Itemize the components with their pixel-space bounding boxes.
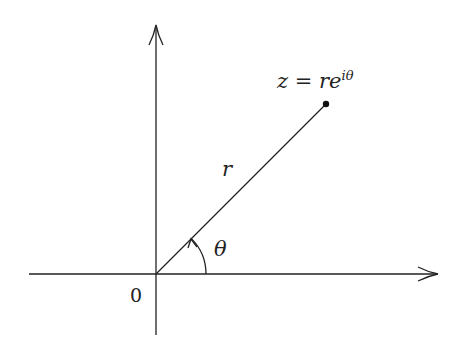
- e-symbol: e: [329, 69, 341, 93]
- radius-line: [156, 104, 326, 274]
- diagram-canvas: [0, 0, 471, 356]
- angle-arc: [191, 239, 206, 274]
- r-symbol: r: [319, 69, 329, 93]
- radius-label: r: [222, 157, 232, 181]
- point-z: [323, 101, 329, 107]
- angle-label: θ: [214, 237, 227, 261]
- z-symbol: z: [277, 69, 288, 93]
- origin-label: 0: [130, 284, 142, 306]
- exponent: iθ: [342, 68, 354, 83]
- equals-sign: =: [295, 69, 313, 93]
- point-label: z = reiθ: [277, 68, 354, 93]
